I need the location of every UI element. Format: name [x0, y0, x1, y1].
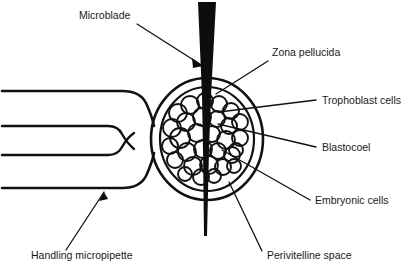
label-handling-micropipette: Handling micropipette — [31, 249, 133, 261]
leader-trophoblast-cells — [219, 100, 316, 112]
label-perivitelline-space: Perivitelline space — [267, 249, 352, 261]
embryo-biopsy-diagram: Microblade Zona pellucida Trophoblast ce… — [0, 0, 409, 273]
leader-zona-pellucida — [216, 61, 268, 94]
leader-perivitelline-space — [229, 182, 262, 251]
label-embryonic-cells: Embryonic cells — [315, 194, 389, 206]
pipette-inner-bore-top — [2, 126, 134, 149]
pipette-inner-bore-bottom — [2, 133, 134, 155]
leader-handling-micropipette — [66, 192, 104, 250]
leader-lines — [66, 24, 316, 251]
handling-micropipette-graphic — [2, 91, 154, 188]
label-zona-pellucida: Zona pellucida — [272, 46, 340, 58]
pipette-outer-wall-bottom — [2, 153, 154, 188]
label-blastocoel: Blastocoel — [322, 141, 370, 153]
label-trophoblast-cells: Trophoblast cells — [322, 94, 401, 106]
diagram-canvas: Microblade Zona pellucida Trophoblast ce… — [0, 0, 409, 273]
pipette-outer-wall-top — [2, 91, 154, 126]
label-microblade: Microblade — [79, 9, 131, 21]
